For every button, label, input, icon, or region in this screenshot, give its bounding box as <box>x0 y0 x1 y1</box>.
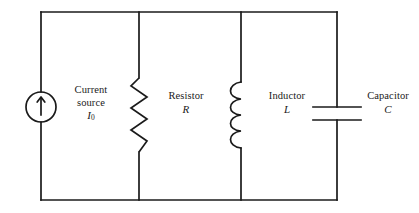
capacitor-label: Capacitor C <box>358 90 418 115</box>
resistor-label-line1: Resistor <box>155 90 217 103</box>
inductor-coil-icon <box>231 82 242 148</box>
current-source-symbol-subscript: 0 <box>91 113 95 122</box>
capacitor-symbol-variable: C <box>358 103 418 116</box>
current-source-label-line1: Current <box>62 84 120 97</box>
current-source-label: Current source I0 <box>62 84 120 125</box>
current-source-symbol: I0 <box>62 109 120 125</box>
inductor-label-line1: Inductor <box>256 90 318 103</box>
resistor-label: Resistor R <box>155 90 217 115</box>
inductor-symbol-variable: L <box>256 103 318 116</box>
resistor-zigzag-icon <box>131 78 147 152</box>
current-source-label-line2: source <box>62 97 120 110</box>
inductor-label: Inductor L <box>256 90 318 115</box>
circuit-diagram: Current source I0 Resistor R Inductor L … <box>0 0 419 213</box>
resistor-symbol-variable: R <box>155 103 217 116</box>
capacitor-label-line1: Capacitor <box>358 90 418 103</box>
